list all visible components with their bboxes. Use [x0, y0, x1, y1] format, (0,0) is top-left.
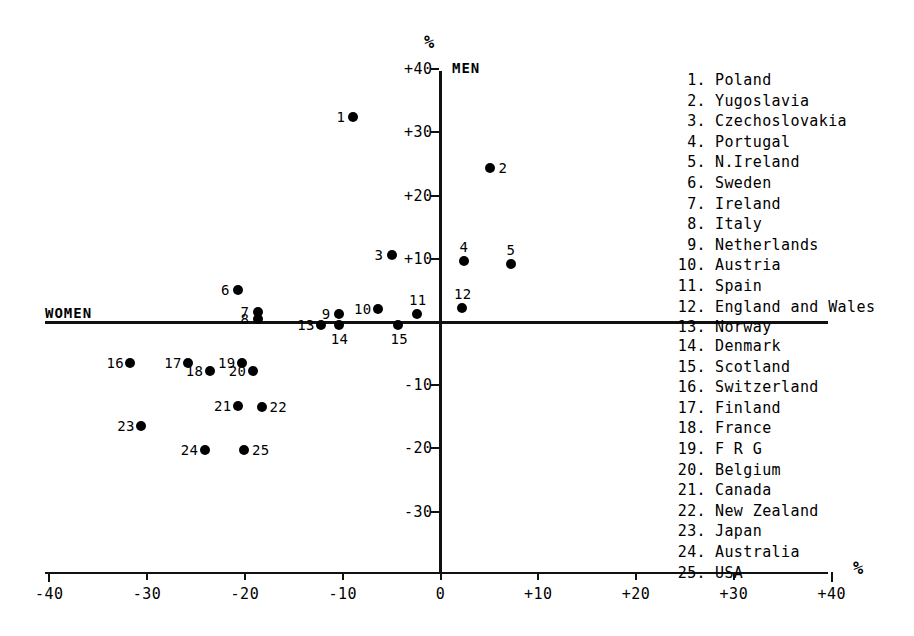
data-point-12[interactable]: [457, 303, 467, 313]
y-axis-tick-label: -10: [381, 376, 433, 394]
data-point-5[interactable]: [506, 259, 516, 269]
x-axis-tick: [342, 572, 344, 580]
data-point-label-24: 24: [181, 442, 198, 458]
data-point-21[interactable]: [233, 401, 243, 411]
legend-item-number: 10.: [672, 255, 706, 276]
legend-item: 20.Belgium: [672, 460, 819, 481]
legend-item-number: 16.: [672, 377, 706, 398]
legend-item: 17.Finland: [672, 398, 819, 419]
legend-item-name: Belgium: [715, 461, 781, 479]
legend-item-number: 22.: [672, 501, 706, 522]
legend-item-number: 4.: [672, 132, 706, 153]
data-point-25[interactable]: [239, 445, 249, 455]
data-point-4[interactable]: [459, 256, 469, 266]
legend-item-number: 12.: [672, 297, 706, 318]
y-axis-tick-label: -20: [381, 439, 433, 457]
data-point-16[interactable]: [125, 358, 135, 368]
x-axis-tick-label: -10: [328, 585, 357, 603]
legend-item-name: Sweden: [715, 174, 772, 192]
legend-item-name: Canada: [715, 481, 772, 499]
scatter-chart-page: % % MEN WOMEN +40+30+20+10-10-20-30-40-3…: [0, 0, 914, 636]
legend-item: 8.Italy: [672, 214, 875, 235]
legend-item-number: 7.: [672, 194, 706, 215]
data-point-20[interactable]: [248, 366, 258, 376]
data-point-6[interactable]: [233, 285, 243, 295]
data-point-label-1: 1: [336, 109, 345, 125]
legend-item: 9.Netherlands: [672, 235, 875, 256]
legend-item: 16.Switzerland: [672, 377, 819, 398]
data-point-13[interactable]: [316, 320, 326, 330]
legend-item-name: Ireland: [715, 195, 781, 213]
data-point-9[interactable]: [334, 309, 344, 319]
data-point-label-6: 6: [221, 282, 230, 298]
data-point-label-9: 9: [322, 306, 331, 322]
y-axis-tick-label: +20: [381, 187, 433, 205]
x-axis-tick-label: 0: [436, 585, 446, 603]
legend-item: 18.France: [672, 418, 819, 439]
legend-item: 15.Scotland: [672, 357, 819, 378]
data-point-18[interactable]: [205, 366, 215, 376]
legend-item: 19.F R G: [672, 439, 819, 460]
legend-item: 12.England and Wales: [672, 297, 875, 318]
legend-item-number: 5.: [672, 152, 706, 173]
legend-item: 5.N.Ireland: [672, 152, 875, 173]
x-axis-tick-label: +40: [817, 585, 846, 603]
legend-list-bottom: 14.Denmark15.Scotland16.Switzerland17.Fi…: [672, 336, 819, 583]
legend-item-name: Netherlands: [715, 236, 819, 254]
data-point-11[interactable]: [412, 309, 422, 319]
legend-item-name: Czechoslovakia: [715, 112, 847, 130]
legend-item-number: 13.: [672, 317, 706, 338]
legend-item-number: 2.: [672, 91, 706, 112]
data-point-label-14: 14: [331, 331, 348, 347]
data-point-14[interactable]: [334, 320, 344, 330]
legend-item-number: 18.: [672, 418, 706, 439]
legend-item: 13.Norway: [672, 317, 875, 338]
data-point-label-10: 10: [354, 301, 371, 317]
data-point-8[interactable]: [253, 314, 263, 324]
legend-item: 10.Austria: [672, 255, 875, 276]
legend-item-number: 8.: [672, 214, 706, 235]
legend-item-name: Spain: [715, 277, 762, 295]
legend-item-name: Italy: [715, 215, 762, 233]
legend-item-name: Scotland: [715, 358, 790, 376]
legend-item-name: Switzerland: [715, 378, 819, 396]
legend-item: 3.Czechoslovakia: [672, 111, 875, 132]
x-axis-tick: [635, 572, 637, 580]
legend-item-number: 24.: [672, 542, 706, 563]
legend-item-number: 19.: [672, 439, 706, 460]
data-point-label-3: 3: [375, 247, 384, 263]
legend-item-number: 11.: [672, 276, 706, 297]
legend-item-name: Finland: [715, 399, 781, 417]
data-point-24[interactable]: [200, 445, 210, 455]
x-axis-tick: [48, 572, 50, 582]
data-point-label-2: 2: [498, 160, 507, 176]
legend-item: 1.Poland: [672, 70, 875, 91]
data-point-label-12: 12: [454, 286, 471, 302]
legend-item-name: USA: [715, 564, 743, 582]
data-point-label-18: 18: [186, 363, 203, 379]
data-point-label-8: 8: [241, 311, 250, 327]
data-point-label-5: 5: [506, 242, 515, 258]
data-point-1[interactable]: [348, 112, 358, 122]
data-point-22[interactable]: [257, 402, 267, 412]
data-point-2[interactable]: [485, 163, 495, 173]
legend-item-name: Austria: [715, 256, 781, 274]
legend-item-name: Japan: [715, 522, 762, 540]
data-point-label-17: 17: [164, 355, 181, 371]
x-axis-tick-label: +10: [524, 585, 553, 603]
legend-item-number: 9.: [672, 235, 706, 256]
legend-item: 25.USA: [672, 563, 819, 584]
legend-item-number: 20.: [672, 460, 706, 481]
data-point-label-25: 25: [252, 442, 269, 458]
data-point-15[interactable]: [393, 320, 403, 330]
data-point-label-13: 13: [297, 317, 314, 333]
legend-item-number: 25.: [672, 563, 706, 584]
legend-item: 6.Sweden: [672, 173, 875, 194]
legend-item: 24.Australia: [672, 542, 819, 563]
legend-item-name: N.Ireland: [715, 153, 800, 171]
data-point-3[interactable]: [387, 250, 397, 260]
data-point-23[interactable]: [136, 421, 146, 431]
y-axis-tick-label: -30: [381, 503, 433, 521]
data-point-10[interactable]: [373, 304, 383, 314]
x-axis-tick: [440, 572, 442, 580]
